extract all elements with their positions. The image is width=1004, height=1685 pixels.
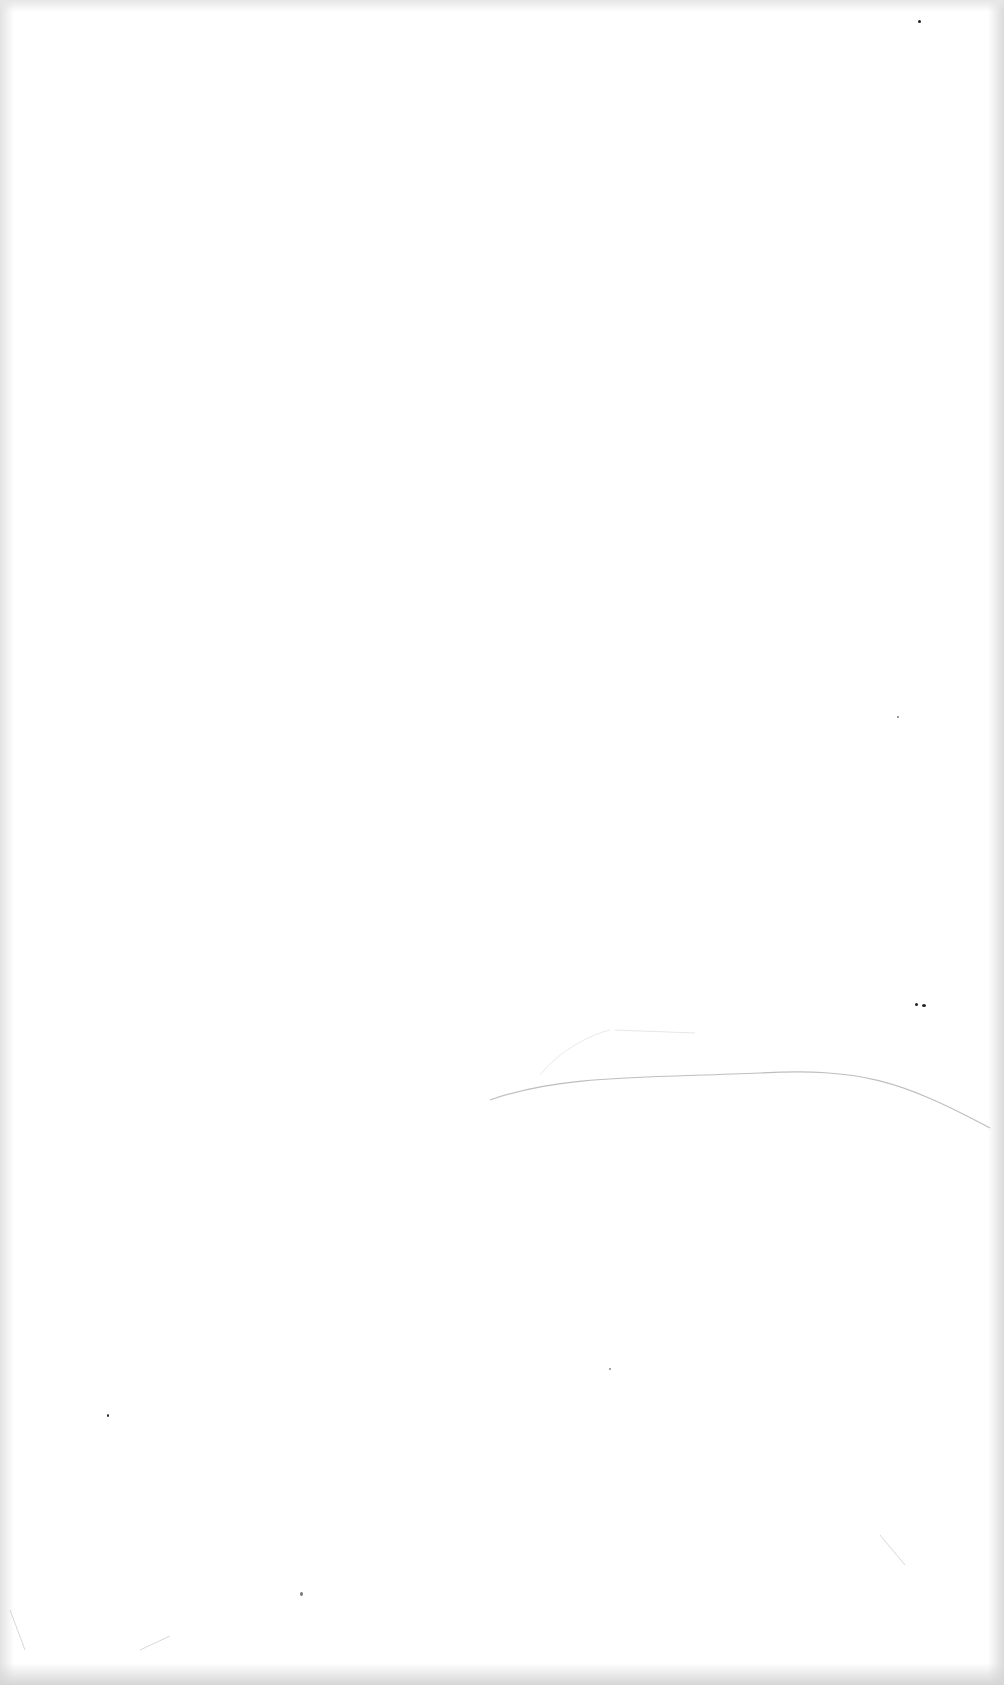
dust-speck	[915, 1003, 918, 1006]
blank-page	[0, 0, 1004, 1685]
dust-speck	[922, 1004, 926, 1007]
dust-speck	[107, 1414, 109, 1417]
dust-speck	[609, 1368, 611, 1370]
pencil-stroke-mark	[0, 0, 1004, 1685]
dust-speck	[918, 20, 921, 23]
dust-speck	[300, 1592, 303, 1596]
dust-speck	[897, 716, 899, 718]
